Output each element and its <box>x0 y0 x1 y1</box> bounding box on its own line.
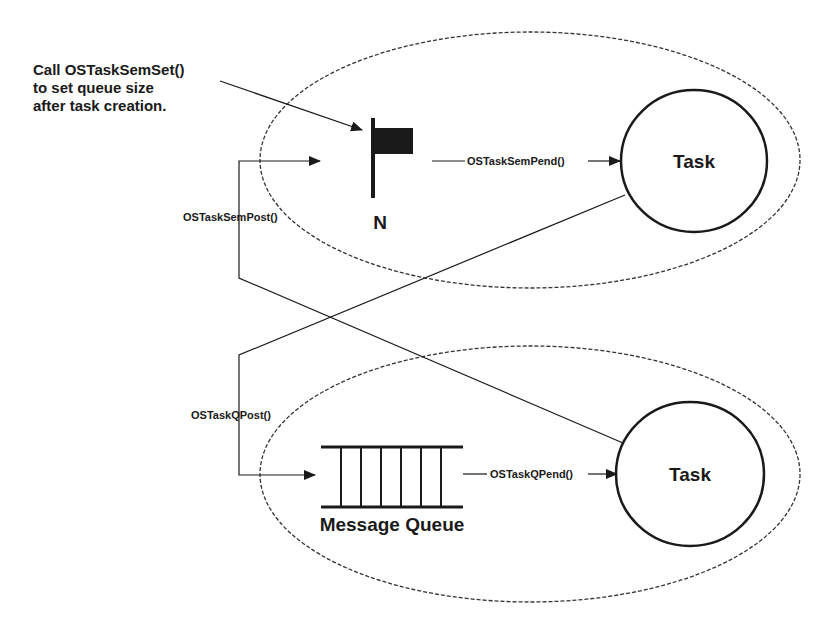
note-line-1: Call OSTaskSemSet() <box>33 61 184 78</box>
sem-post-edge <box>239 161 623 443</box>
top-task-label: Task <box>673 151 715 172</box>
note-line-2: to set queue size <box>33 79 154 96</box>
flag-icon <box>371 118 413 198</box>
queue-label: Message Queue <box>320 514 465 535</box>
q-pend-label: OSTaskQPend() <box>490 468 573 480</box>
note-arrow <box>220 81 362 130</box>
diagram-canvas: Call OSTaskSemSet() to set queue size af… <box>0 0 835 630</box>
bottom-task-label: Task <box>669 464 711 485</box>
sem-pend-label: OSTaskSemPend() <box>467 155 565 167</box>
semaphore-label: N <box>373 212 387 233</box>
sem-post-label: OSTaskSemPost() <box>183 211 278 223</box>
note-line-3: after task creation. <box>33 97 166 114</box>
q-post-edge <box>239 195 625 475</box>
q-post-label: OSTaskQPost() <box>191 409 271 421</box>
message-queue-icon <box>321 447 463 507</box>
